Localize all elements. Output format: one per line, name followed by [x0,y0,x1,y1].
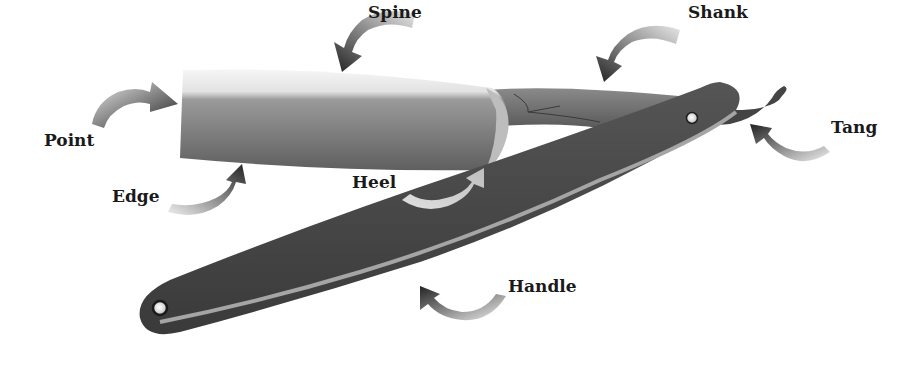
handle-pin-end [153,301,167,315]
arrow-tang-icon [750,124,830,161]
label-edge: Edge [112,188,160,205]
label-spine: Spine [368,4,422,21]
label-heel: Heel [352,174,396,191]
handle-pin-tang [687,113,698,124]
razor-diagram: Spine Shank Point Tang Edge Heel Handle [0,0,922,369]
arrow-handle-icon [420,286,506,320]
arrow-point-icon [92,82,178,128]
blade-shape [180,69,509,170]
label-point: Point [44,132,94,149]
label-shank: Shank [688,4,748,21]
arrow-edge-icon [168,164,246,215]
razor-illustration [0,0,922,369]
label-handle: Handle [508,278,577,295]
label-tang: Tang [831,119,877,136]
arrow-shank-icon [596,26,680,82]
